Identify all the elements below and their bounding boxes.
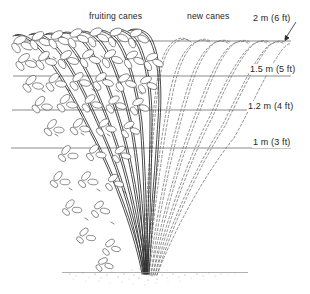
label-fruiting-canes: fruiting canes: [88, 11, 143, 22]
label-height-1m: 1 m (3 ft): [252, 137, 292, 148]
label-new-canes: new canes: [186, 11, 230, 22]
label-height-2m: 2 m (6 ft): [252, 13, 292, 24]
label-height-1-5m: 1.5 m (5 ft): [249, 64, 296, 75]
label-height-1-2m: 1.2 m (4 ft): [247, 101, 294, 112]
